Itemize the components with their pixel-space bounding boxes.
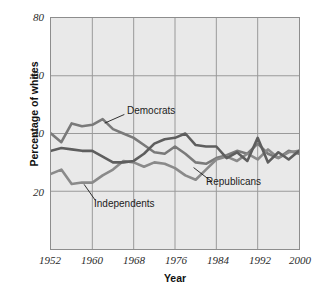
series-label-democrats: Democrats (127, 106, 175, 116)
plot-area (50, 17, 300, 250)
chart-canvas (51, 18, 299, 249)
y-axis-title: Percentage of whites (28, 54, 40, 174)
x-tick-1992: 1992 (239, 255, 281, 266)
leader-line-0 (105, 114, 125, 123)
x-tick-1968: 1968 (113, 255, 155, 266)
x-tick-1960: 1960 (71, 255, 113, 266)
x-tick-1976: 1976 (155, 255, 197, 266)
x-tick-1952: 1952 (29, 255, 71, 266)
series-label-independents: Independents (94, 199, 155, 209)
x-axis-title: Year (50, 272, 300, 284)
y-tick-20: 20 (14, 187, 44, 198)
chart-figure: 80 60 40 20 1952 1960 1968 1976 1984 199… (0, 0, 322, 298)
x-tick-2000: 2000 (279, 255, 321, 266)
y-tick-80: 80 (14, 12, 44, 23)
x-tick-1984: 1984 (197, 255, 239, 266)
gridlines (51, 18, 299, 249)
series-label-republicans: Republicans (206, 177, 261, 187)
